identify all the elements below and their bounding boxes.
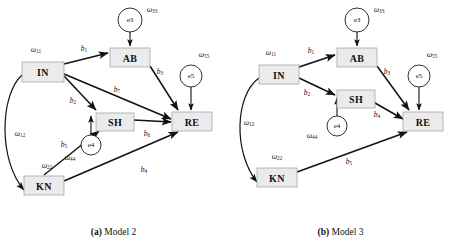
path-label-b1: b1 [81,44,88,53]
path-label-b7: b7 [114,85,121,94]
diagram-model-2: IN AB SH RE KN e3 e5 e4 ω11 ω33 ω55 ω44 … [0,0,227,205]
edge-IN-to-AB [299,55,335,67]
caption-model-2: (a) Model 2 [0,227,227,237]
path-label-b5: b5 [61,140,68,149]
path-label-b3: b3 [157,67,164,76]
node-label-SH: SH [349,94,363,105]
edge-AB-to-RE [377,66,409,110]
node-label-e3: e3 [127,16,134,24]
variance-label-w11: ω11 [266,48,277,57]
path-label-b2: b2 [304,88,311,97]
node-label-SH: SH [108,117,122,128]
diagram-model-3: IN AB SH RE KN e3 e5 e4 ω11 ω33 ω55 ω44 … [227,0,454,205]
node-label-e5: e5 [188,72,195,80]
variance-label-w12: ω12 [15,129,26,138]
node-label-KN: KN [36,181,52,192]
node-label-e5: e5 [416,72,423,80]
node-label-KN: KN [269,173,285,184]
caption-tag-a: (a) [91,227,102,237]
path-label-b5: b5 [346,157,353,166]
node-label-IN: IN [37,67,49,78]
variance-label-w22: ω22 [42,161,53,170]
node-label-AB: AB [123,53,138,64]
variance-label-w11: ω11 [31,45,42,54]
variance-label-w44: ω44 [307,131,318,140]
caption-model-3: (b) Model 3 [227,227,454,237]
variance-label-w55: ω55 [427,50,438,59]
edge-IN-to-RE [64,74,171,119]
path-label-b4: b4 [374,110,381,119]
path-label-b1: b1 [308,46,315,55]
node-label-IN: IN [273,70,285,81]
variance-label-w12: ω12 [244,118,255,127]
node-label-e3: e3 [354,16,361,24]
variance-label-w22: ω22 [272,152,283,161]
node-label-AB: AB [350,53,365,64]
node-label-RE: RE [416,117,431,128]
caption-tag-b: (b) [318,227,330,237]
path-label-b2: b2 [70,96,77,105]
node-label-RE: RE [185,117,200,128]
edge-SH-to-RE [134,120,171,122]
panel-model-2: IN AB SH RE KN e3 e5 e4 ω11 ω33 ω55 ω44 … [0,0,227,249]
edge-IN-KN-covariance [240,78,259,182]
figure-two-path-diagrams: IN AB SH RE KN e3 e5 e4 ω11 ω33 ω55 ω44 … [0,0,454,249]
path-label-b4: b4 [141,165,148,174]
edge-KN-to-RE [64,132,178,181]
variance-label-w55: ω55 [199,50,210,59]
edge-IN-to-AB [64,53,108,64]
caption-text-b: Model 3 [332,227,364,237]
node-label-e4: e4 [88,141,95,149]
variance-label-w33: ω33 [147,5,158,14]
edge-AB-to-RE [150,66,178,110]
path-label-b3: b3 [384,67,391,76]
panel-model-3: IN AB SH RE KN e3 e5 e4 ω11 ω33 ω55 ω44 … [227,0,454,249]
variance-label-w33: ω33 [374,5,385,14]
path-label-b6: b6 [144,129,151,138]
node-label-e4: e4 [334,122,341,130]
caption-text-a: Model 2 [104,227,136,237]
